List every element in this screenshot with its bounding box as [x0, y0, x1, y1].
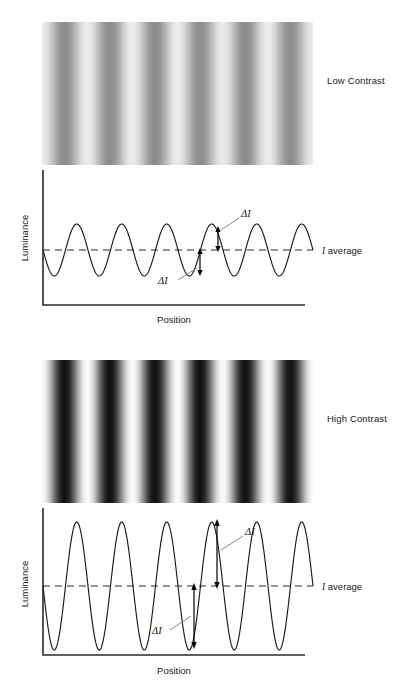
high-contrast-grating: [42, 360, 313, 503]
delta-i-lower-arrow: [197, 248, 202, 276]
low-contrast-label: Low Contrast: [327, 75, 385, 86]
delta-i-upper-label: ΔI: [240, 208, 251, 219]
delta-i-lower-leader: [178, 268, 197, 280]
average-luminance-label: I average: [321, 581, 362, 592]
average-word: average: [325, 581, 362, 592]
y-axis-title: Luminance: [19, 215, 30, 261]
average-luminance-label: I average: [321, 245, 362, 256]
high-contrast-plot: ΔI ΔI I average Luminance Position: [0, 506, 410, 691]
delta-i-upper-leader: [221, 218, 239, 230]
low-contrast-grating: [42, 22, 313, 165]
delta-i-upper-label: ΔI: [244, 526, 255, 537]
delta-i-lower-arrow: [191, 583, 196, 649]
y-axis-title: Luminance: [19, 561, 30, 607]
contrast-figure: Low Contrast ΔI ΔI: [0, 0, 410, 691]
delta-i-lower-label: ΔI: [151, 625, 162, 636]
delta-i-lower-leader: [170, 616, 191, 630]
high-contrast-label: High Contrast: [327, 413, 387, 424]
plot-axes: [43, 508, 305, 655]
low-contrast-plot: ΔI ΔI I average Luminance Position: [0, 168, 410, 328]
average-word: average: [325, 245, 362, 256]
x-axis-title: Position: [157, 665, 191, 676]
x-axis-title: Position: [157, 314, 191, 325]
delta-i-upper-leader: [221, 536, 243, 550]
delta-i-lower-label: ΔI: [157, 275, 168, 286]
